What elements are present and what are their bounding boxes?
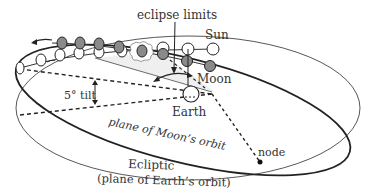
moon-marker (75, 37, 85, 49)
label-sun: Sun (205, 28, 229, 42)
sun-marker (36, 54, 46, 66)
label-eclipse-limits: eclipse limits (137, 8, 217, 22)
arrowhead-icon (92, 80, 98, 85)
label-earth: Earth (172, 105, 206, 119)
moon-marker (137, 45, 147, 57)
dashed-line-node (212, 94, 260, 162)
arrowhead-icon (31, 39, 37, 45)
node-point (258, 160, 263, 165)
moon-marker (182, 56, 193, 67)
eclipse-limits-pointer (174, 22, 175, 70)
label-node: node (258, 146, 285, 159)
sun-marker (55, 49, 65, 61)
moon-marker (205, 61, 216, 72)
lunar-orbit-diagram: eclipse limits Sun Moon Earth 5° tilt pl… (0, 0, 369, 193)
moon-marker (94, 38, 104, 50)
moon-marker (57, 37, 67, 49)
moon-marker (158, 49, 169, 60)
label-tilt: 5° tilt (64, 89, 96, 102)
sun-marker (207, 43, 219, 55)
earth-marker (183, 86, 199, 102)
sun-marker (16, 62, 24, 74)
small-arrow-icon (47, 60, 55, 62)
label-ecliptic: Ecliptic (128, 157, 175, 173)
label-moon: Moon (197, 72, 232, 86)
label-ecliptic-sub: (plane of Earth’s orbit) (97, 171, 231, 190)
moon-marker (114, 41, 124, 53)
